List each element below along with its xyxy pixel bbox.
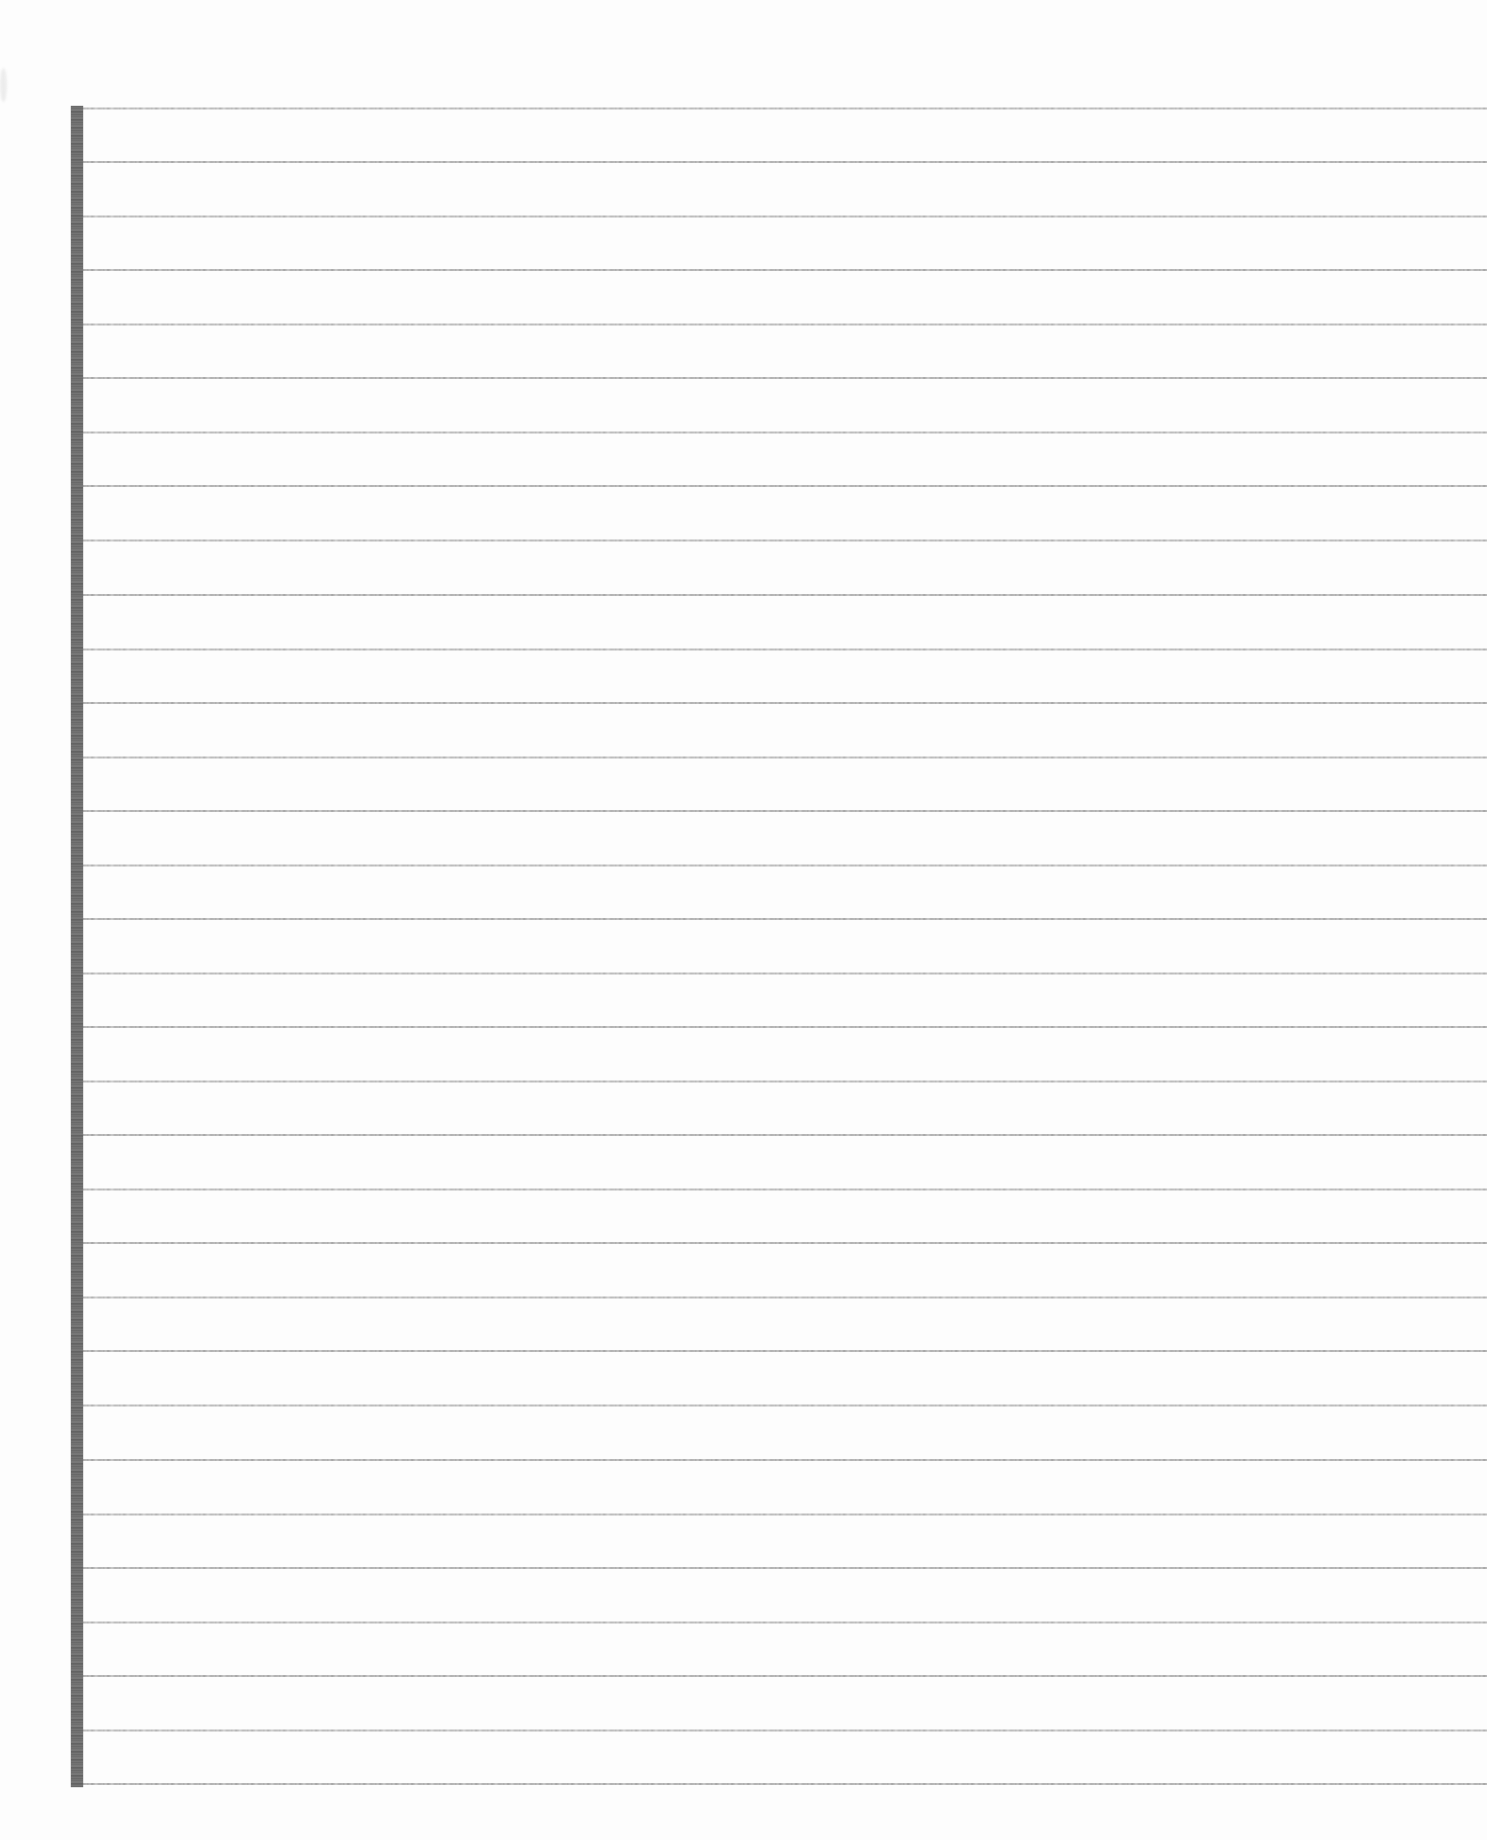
margin-bar — [71, 106, 83, 1787]
rule-line — [71, 1405, 1487, 1407]
rule-line — [71, 432, 1487, 434]
rule-line — [71, 1026, 1487, 1028]
rule-line — [71, 1134, 1487, 1136]
rule-line — [71, 1297, 1487, 1299]
rule-line — [71, 269, 1487, 271]
rule-line — [71, 756, 1487, 758]
rule-line — [71, 485, 1487, 487]
notebook-page — [0, 0, 1487, 1840]
rule-line — [71, 810, 1487, 812]
rule-line — [71, 1729, 1487, 1731]
rule-lines-container — [0, 0, 1487, 1840]
rule-line — [71, 324, 1487, 326]
rule-line — [71, 918, 1487, 920]
rule-line — [71, 1189, 1487, 1191]
rule-line — [71, 1675, 1487, 1677]
rule-line — [71, 594, 1487, 596]
rule-line — [71, 377, 1487, 379]
rule-line — [71, 540, 1487, 542]
rule-line — [71, 702, 1487, 704]
rule-line — [71, 1459, 1487, 1461]
rule-line — [71, 216, 1487, 218]
rule-line — [71, 864, 1487, 866]
rule-line — [71, 1513, 1487, 1515]
rule-line — [71, 648, 1487, 650]
rule-line — [71, 1567, 1487, 1569]
rule-line — [71, 108, 1487, 110]
rule-line — [71, 1350, 1487, 1352]
rule-line — [71, 972, 1487, 974]
rule-line — [71, 1081, 1487, 1083]
rule-line — [71, 1621, 1487, 1623]
rule-line — [71, 161, 1487, 163]
rule-line — [71, 1783, 1487, 1785]
rule-line — [71, 1242, 1487, 1244]
